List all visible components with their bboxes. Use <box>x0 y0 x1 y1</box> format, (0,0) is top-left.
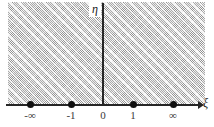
eta-axis-line <box>102 3 104 105</box>
axis-dot <box>68 101 75 108</box>
tick-label: -∞ <box>24 109 36 122</box>
complex-plane-figure: η ξ -∞-101∞ <box>0 0 214 127</box>
shaded-region <box>8 2 205 105</box>
eta-axis-label: η <box>89 1 101 17</box>
tick-label: -1 <box>66 109 75 122</box>
tick-label: ∞ <box>169 109 177 122</box>
tick-label: 1 <box>130 109 136 122</box>
axis-dot <box>130 101 137 108</box>
axis-dot <box>170 101 177 108</box>
axis-dot <box>27 101 34 108</box>
tick-label: 0 <box>100 109 106 122</box>
xi-axis-label: ξ <box>203 96 208 110</box>
